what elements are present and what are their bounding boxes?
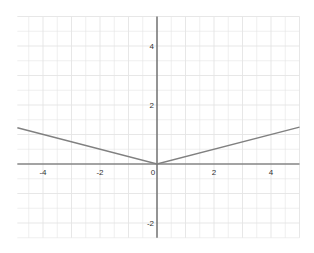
grid-lines [17, 17, 299, 238]
series-line [17, 127, 299, 164]
y-tick-label: -2 [147, 219, 155, 228]
data-series [17, 127, 299, 164]
x-tick-label: -2 [96, 168, 104, 177]
x-tick-label: 2 [212, 168, 217, 177]
axes [17, 17, 299, 238]
y-tick-label: 4 [150, 42, 155, 51]
x-tick-label: 4 [269, 168, 274, 177]
x-tick-label: 0 [151, 168, 156, 177]
chart-plot: -4-2024-224 [0, 0, 314, 253]
y-tick-label: 2 [150, 101, 155, 110]
x-tick-label: -4 [39, 168, 47, 177]
